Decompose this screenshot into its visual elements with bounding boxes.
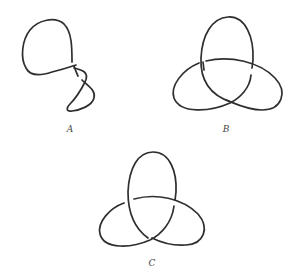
knot-figure xyxy=(0,0,295,278)
knot-a-diagram xyxy=(23,20,95,111)
label-a: A xyxy=(67,124,74,134)
label-c: C xyxy=(149,258,156,268)
knot-b-diagram xyxy=(173,17,282,110)
knot-c-diagram xyxy=(100,152,205,246)
label-b: B xyxy=(223,124,230,134)
